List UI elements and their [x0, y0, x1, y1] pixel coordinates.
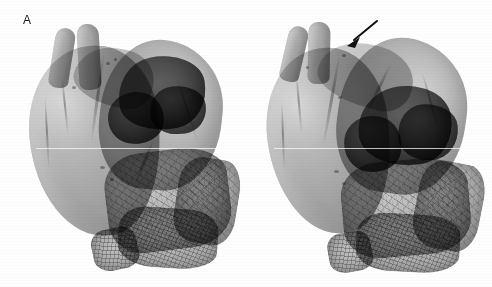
surface-speck-a-5 [110, 178, 114, 181]
scanline-artifact-b [274, 148, 468, 149]
panel-a-render [0, 0, 246, 287]
surface-speck-a-4 [100, 166, 105, 169]
surface-speck-a-1 [106, 62, 110, 65]
surface-speck-a-3 [72, 86, 76, 89]
surface-speck-b-2 [306, 66, 309, 69]
mesh-structure-b-left [325, 228, 375, 275]
surface-speck-b-3 [338, 96, 342, 99]
panel-b: B [246, 0, 492, 287]
figure-container: A [0, 0, 492, 287]
surface-speck-b-4 [334, 170, 339, 173]
surface-speck-a-2 [114, 58, 117, 61]
panel-a: A [0, 0, 246, 287]
scanline-artifact-a [36, 148, 232, 149]
surface-speck-b-5 [342, 182, 346, 185]
panel-b-render [246, 0, 492, 287]
surface-speck-b-1 [342, 54, 346, 57]
